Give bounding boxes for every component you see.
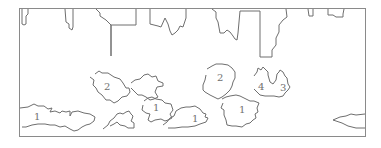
top-boundary-2: [65, 9, 73, 30]
region-map-figure: 1 2 1 1 2 1 4 3: [0, 0, 381, 148]
region-label-2-left: 2: [104, 81, 110, 92]
top-boundary-6: [308, 9, 313, 16]
region-label-2-right: 2: [217, 72, 223, 83]
top-boundary-1: [22, 9, 28, 25]
top-boundary-7: [328, 9, 344, 17]
top-boundary-3: [96, 9, 136, 56]
region-edge-right: [333, 114, 365, 128]
region-mid-1b: [163, 106, 208, 128]
region-label-mid-1b: 1: [192, 113, 198, 124]
map-canvas: 1 2 1 1 2 1 4 3: [0, 0, 381, 148]
region-label-4: 4: [258, 81, 264, 92]
region-small: [103, 111, 134, 129]
region-mid-upper: [131, 74, 163, 100]
top-boundary-4: [150, 9, 186, 35]
region-label-left-1: 1: [34, 111, 40, 122]
region-label-3: 3: [280, 82, 286, 93]
region-left-1: [20, 104, 95, 131]
region-label-mid-1a: 1: [153, 102, 159, 113]
region-label-right-1: 1: [239, 104, 245, 115]
top-boundary-5: [212, 9, 287, 57]
